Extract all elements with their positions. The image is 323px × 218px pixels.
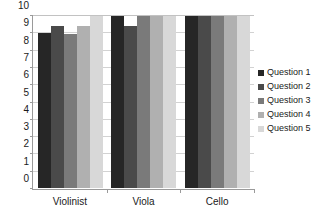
legend-swatch-icon — [258, 70, 264, 76]
y-axis-tick-label: 1 — [23, 157, 29, 167]
legend-item: Question 2 — [258, 80, 311, 93]
bar — [77, 26, 90, 188]
y-axis-tick-label: 8 — [23, 36, 29, 46]
bar — [185, 16, 198, 188]
bar — [163, 16, 176, 188]
y-axis-tick-mark — [30, 119, 33, 120]
legend-label: Question 4 — [267, 110, 311, 119]
bar-group — [34, 16, 107, 188]
legend-item: Question 1 — [258, 66, 311, 79]
legend-label: Question 3 — [267, 96, 311, 105]
bar — [198, 16, 211, 188]
plot-frame: 012345678910 ViolinistViolaCello — [32, 16, 254, 190]
x-axis-tick-mark — [180, 189, 181, 193]
y-axis-tick-label: 5 — [23, 88, 29, 98]
bar — [124, 26, 137, 188]
bar — [90, 16, 103, 188]
bar-group — [107, 16, 180, 188]
legend-swatch-icon — [258, 126, 264, 132]
legend-swatch-icon — [258, 98, 264, 104]
bar-groups — [34, 16, 254, 188]
x-axis-label: Cello — [180, 197, 254, 207]
bar — [137, 16, 150, 188]
y-axis-tick-mark — [30, 136, 33, 137]
y-axis-tick-label: 7 — [23, 53, 29, 63]
y-axis-tick-label: 6 — [23, 70, 29, 80]
bar — [51, 26, 64, 188]
y-axis-tick-mark — [30, 84, 33, 85]
y-axis-tick-mark — [30, 32, 33, 33]
y-axis-tick-label: 10 — [18, 1, 29, 11]
legend-item: Question 3 — [258, 94, 311, 107]
legend-label: Question 5 — [267, 124, 311, 133]
y-axis-tick-label: 2 — [23, 139, 29, 149]
x-axis-label: Violinist — [33, 197, 107, 207]
y-axis-tick-mark — [30, 67, 33, 68]
bar — [111, 16, 124, 188]
legend-label: Question 2 — [267, 82, 311, 91]
bar — [38, 33, 51, 188]
legend-item: Question 5 — [258, 122, 311, 135]
legend-swatch-icon — [258, 112, 264, 118]
y-axis-tick-mark — [30, 50, 33, 51]
chart-legend: Question 1Question 2Question 3Question 4… — [258, 66, 311, 136]
plot-area: 012345678910 — [32, 16, 254, 190]
bar-group — [181, 16, 254, 188]
bar — [64, 34, 77, 188]
y-axis-tick-label: 4 — [23, 105, 29, 115]
legend-label: Question 1 — [267, 68, 311, 77]
bar — [150, 16, 163, 188]
x-axis-label: Viola — [107, 197, 181, 207]
y-axis-tick-label: 3 — [23, 122, 29, 132]
y-axis-tick-mark — [30, 153, 33, 154]
bar — [224, 16, 237, 188]
y-axis-tick-mark — [30, 15, 33, 16]
x-axis-labels: ViolinistViolaCello — [33, 197, 254, 207]
bar — [237, 16, 250, 188]
y-axis-tick-mark — [30, 102, 33, 103]
x-axis-tick-mark — [107, 189, 108, 193]
bar-chart: 012345678910 ViolinistViolaCello Questio… — [0, 0, 323, 218]
y-axis-tick-label: 9 — [23, 18, 29, 28]
bar — [211, 16, 224, 188]
y-axis-tick-mark — [30, 171, 33, 172]
legend-swatch-icon — [258, 84, 264, 90]
legend-item: Question 4 — [258, 108, 311, 121]
x-axis-tick-mark — [254, 189, 255, 193]
y-axis-tick-label: 0 — [23, 174, 29, 184]
y-axis-tick-mark — [30, 188, 33, 189]
